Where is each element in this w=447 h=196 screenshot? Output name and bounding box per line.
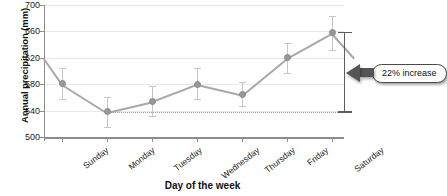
line-segment bbox=[287, 33, 333, 60]
annotation-arrow-tail bbox=[360, 68, 374, 77]
line-segment bbox=[62, 84, 108, 114]
x-tick-label: Wednesday bbox=[220, 145, 262, 181]
error-bar-cap bbox=[239, 82, 246, 83]
y-tick-label: 500 bbox=[6, 132, 40, 142]
line-segment bbox=[197, 84, 242, 96]
x-tick-label: Saturday bbox=[352, 145, 385, 174]
annotation-text: 22% increase bbox=[382, 68, 437, 78]
data-point[interactable] bbox=[329, 29, 336, 36]
data-point[interactable] bbox=[149, 98, 156, 105]
x-tick-label: Thursday bbox=[263, 145, 297, 175]
y-tick-label: 580 bbox=[6, 79, 40, 89]
error-bar-cap bbox=[149, 116, 156, 117]
reference-line bbox=[107, 112, 344, 113]
error-bar-cap bbox=[284, 73, 291, 74]
error-bar-cap bbox=[194, 68, 201, 69]
x-tick-mark bbox=[332, 137, 333, 142]
line-segment bbox=[152, 84, 198, 103]
x-tick-mark bbox=[107, 137, 108, 142]
data-point[interactable] bbox=[239, 91, 246, 98]
x-axis-title: Day of the week bbox=[0, 180, 405, 191]
x-tick-label: Monday bbox=[126, 145, 156, 172]
y-tick-label: 700 bbox=[6, 0, 40, 10]
x-tick-mark bbox=[197, 137, 198, 142]
error-bar-cap bbox=[284, 43, 291, 44]
x-tick-mark bbox=[287, 137, 288, 142]
data-point[interactable] bbox=[59, 80, 66, 87]
error-bar-cap bbox=[329, 16, 336, 17]
y-tick-mark bbox=[40, 31, 45, 32]
y-tick-mark bbox=[40, 137, 45, 138]
bracket-cap bbox=[338, 32, 352, 34]
error-bar-cap bbox=[149, 86, 156, 87]
gridline bbox=[44, 31, 344, 32]
y-tick-mark bbox=[40, 84, 45, 85]
x-tick-mark bbox=[62, 137, 63, 142]
bracket-cap bbox=[338, 111, 352, 113]
gridline bbox=[44, 5, 344, 6]
error-bar-cap bbox=[104, 97, 111, 98]
x-tick-label: Sunday bbox=[81, 145, 110, 171]
line-segment bbox=[241, 58, 287, 96]
error-bar-cap bbox=[59, 99, 66, 100]
annotation-callout[interactable]: 22% increase bbox=[372, 64, 447, 83]
y-tick-label: 540 bbox=[6, 106, 40, 116]
y-tick-label: 660 bbox=[6, 26, 40, 36]
gridline bbox=[44, 58, 344, 59]
x-axis-line bbox=[44, 137, 344, 139]
x-tick-mark bbox=[242, 137, 243, 142]
x-tick-label: Friday bbox=[305, 145, 330, 168]
y-tick-mark bbox=[40, 5, 45, 6]
y-axis-line bbox=[44, 5, 45, 141]
error-bar-cap bbox=[104, 127, 111, 128]
error-bar-cap bbox=[194, 99, 201, 100]
x-tick-mark bbox=[152, 137, 153, 142]
x-tick-label: Tuesday bbox=[172, 145, 204, 173]
error-bar-cap bbox=[329, 50, 336, 51]
y-tick-label: 620 bbox=[6, 53, 40, 63]
error-bar-cap bbox=[59, 68, 66, 69]
error-bar-cap bbox=[239, 106, 246, 107]
y-tick-mark bbox=[40, 111, 45, 112]
data-point[interactable] bbox=[194, 81, 201, 88]
line-segment bbox=[331, 33, 354, 59]
annotation-arrow-icon bbox=[346, 64, 360, 82]
plot-area: 500540580620660700 SundayMondayTuesdayWe… bbox=[44, 5, 344, 141]
data-point[interactable] bbox=[284, 54, 291, 61]
